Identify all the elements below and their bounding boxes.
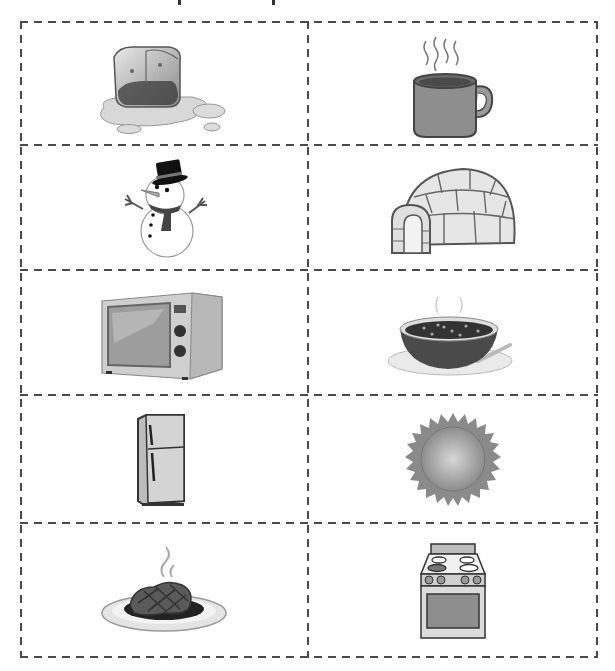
- clipped-text-fragment: [178, 0, 181, 5]
- hot-mug-icon: [398, 29, 508, 139]
- card-grid: Melting ice cube Hot mug of drink: [20, 22, 598, 658]
- card-steak: Cooked steak on plate: [20, 523, 308, 658]
- sun-icon: [403, 409, 503, 509]
- card-refrigerator: Refrigerator: [20, 395, 308, 523]
- card-hot-mug: Hot mug of drink: [308, 22, 598, 145]
- ice-cube-icon: [84, 29, 244, 139]
- card-igloo: Igloo: [308, 145, 598, 270]
- card-soup-bowl: Bowl of hot soup: [308, 270, 598, 395]
- card-sun: Sun: [308, 395, 598, 523]
- card-microwave: Microwave oven: [20, 270, 308, 395]
- igloo-icon: [378, 153, 528, 263]
- microwave-icon: [94, 283, 234, 383]
- soup-bowl-icon: [378, 283, 528, 383]
- snowman-icon: [109, 153, 219, 263]
- stove-icon: [413, 538, 493, 643]
- card-snowman: Snowman: [20, 145, 308, 270]
- clipped-text-fragment: [272, 0, 275, 5]
- refrigerator-icon: [124, 409, 204, 509]
- steak-icon: [94, 541, 234, 641]
- card-ice-cube: Melting ice cube: [20, 22, 308, 145]
- card-stove: Stove with oven: [308, 523, 598, 658]
